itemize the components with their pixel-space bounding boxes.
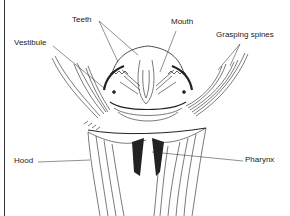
label-pharynx: Pharynx xyxy=(245,155,274,165)
pharynx-right-wedge xyxy=(152,138,164,176)
label-mouth: Mouth xyxy=(171,17,193,27)
label-grasping-spines: Grasping spines xyxy=(216,30,274,40)
label-hood: Hood xyxy=(14,156,33,166)
label-teeth: Teeth xyxy=(72,15,92,25)
right-grasping-spines xyxy=(186,53,248,116)
left-grasping-spines xyxy=(52,56,110,118)
pharynx-left-wedge xyxy=(132,138,144,176)
label-vestibule: Vestibule xyxy=(14,38,46,48)
diagram-figure: Teeth Mouth Grasping spines Vestibule Ho… xyxy=(0,0,290,216)
